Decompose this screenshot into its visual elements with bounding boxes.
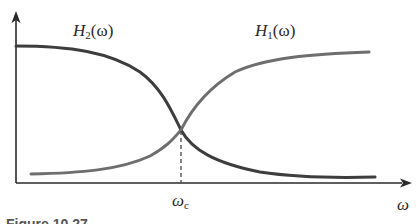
- crossover-diagram: [0, 0, 417, 224]
- h2-curve: [16, 46, 375, 177]
- h1-curve: [31, 52, 369, 174]
- h2-label: H2(ω): [73, 22, 113, 41]
- figure-caption: Figure 10.27: [6, 216, 88, 224]
- crossover-label: ωc: [172, 192, 189, 211]
- x-axis-label: ω: [397, 196, 409, 213]
- h1-label: H1(ω): [255, 22, 295, 41]
